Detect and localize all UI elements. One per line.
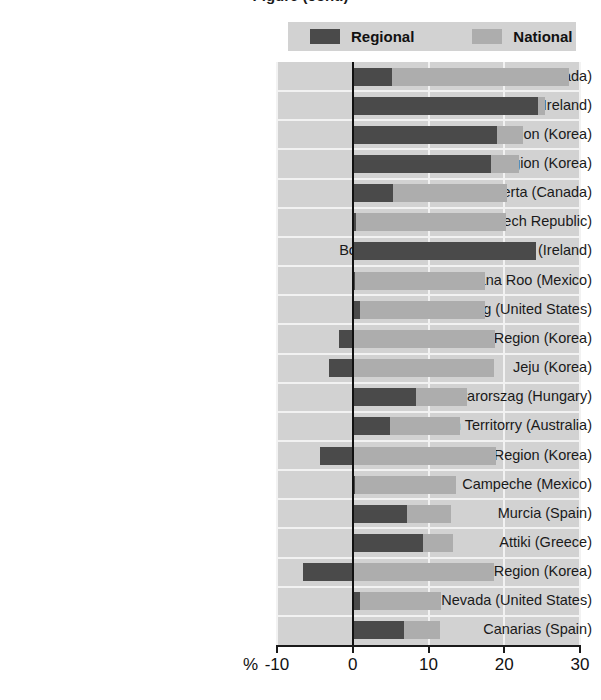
bar-regional — [353, 301, 360, 319]
bar-regional — [353, 534, 423, 552]
bar-national — [353, 301, 485, 319]
bar-national — [353, 592, 442, 610]
bar-regional — [353, 388, 416, 406]
row-separator — [277, 148, 580, 150]
bar-regional — [339, 330, 353, 348]
plot-area — [277, 62, 580, 645]
bar-regional — [353, 97, 538, 115]
row-separator — [277, 440, 580, 442]
bar-national — [353, 447, 496, 465]
bar-national — [353, 272, 486, 290]
axis-tick — [428, 645, 430, 653]
row-separator — [277, 498, 580, 500]
bar-regional — [353, 592, 360, 610]
axis-tick-label: 30 — [571, 655, 590, 675]
row-separator — [277, 323, 580, 325]
axis-tick — [276, 645, 278, 653]
bar-row — [277, 68, 580, 86]
legend-label-national: National — [513, 28, 572, 45]
bar-regional — [353, 184, 393, 202]
bar-national — [353, 476, 456, 494]
bar-row — [277, 97, 580, 115]
legend-item-regional: Regional — [310, 28, 414, 45]
zero-line — [352, 62, 354, 645]
chart-legend: Regional National — [288, 22, 576, 51]
axis-tick-label: -10 — [265, 655, 290, 675]
row-separator — [277, 527, 580, 529]
bar-national — [353, 359, 495, 377]
bar-national — [353, 330, 495, 348]
bar-regional — [353, 621, 405, 639]
row-separator — [277, 411, 580, 413]
legend-swatch-regional-icon — [310, 29, 340, 44]
chart-title-strip: Figure (cont.) — [0, 0, 601, 14]
bar-row — [277, 242, 580, 260]
axis-tick-label: 0 — [348, 655, 357, 675]
chart-container: Figure (cont.) Regional National Northwe… — [0, 0, 601, 700]
axis-tick — [503, 645, 505, 653]
bar-regional — [329, 359, 353, 377]
row-separator — [277, 382, 580, 384]
row-separator — [277, 207, 580, 209]
legend-label-regional: Regional — [351, 28, 414, 45]
row-separator — [277, 294, 580, 296]
legend-swatch-national-icon — [472, 29, 502, 44]
legend-item-national: National — [472, 28, 572, 45]
row-separator — [277, 90, 580, 92]
row-separator — [277, 353, 580, 355]
bar-regional — [303, 563, 353, 581]
bar-regional — [353, 68, 392, 86]
axis-tick-label: 10 — [419, 655, 438, 675]
bar-regional — [353, 155, 491, 173]
row-separator — [277, 557, 580, 559]
bar-regional — [353, 242, 536, 260]
axis-tick — [579, 645, 581, 653]
row-separator — [277, 119, 580, 121]
bar-regional — [320, 447, 353, 465]
bar-regional — [353, 505, 407, 523]
page-title: Figure (cont.) — [0, 0, 601, 4]
row-separator — [277, 469, 580, 471]
row-separator — [277, 178, 580, 180]
bar-regional — [353, 417, 390, 435]
row-separator — [277, 586, 580, 588]
bar-national — [353, 563, 495, 581]
bar-regional — [353, 126, 497, 144]
row-separator — [277, 265, 580, 267]
axis-unit-label: % — [243, 655, 258, 675]
row-separator — [277, 236, 580, 238]
axis-tick-label: 20 — [495, 655, 514, 675]
row-separator — [277, 615, 580, 617]
bar-national — [353, 213, 506, 231]
axis-tick — [352, 645, 354, 653]
